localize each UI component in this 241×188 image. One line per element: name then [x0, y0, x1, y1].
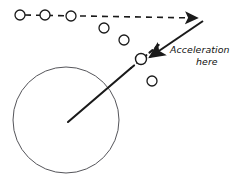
trajectory-marker-1: [15, 10, 25, 20]
trajectory-marker-4: [99, 23, 109, 33]
trajectory-marker-2: [40, 10, 50, 20]
trajectory-marker-5: [119, 35, 129, 45]
diagram-canvas: Acceleration here: [0, 0, 241, 188]
trajectory-marker-6: [136, 54, 147, 65]
physics-motion-diagram: Acceleration here: [0, 0, 241, 188]
inertial-path-dashed-line: [25, 15, 197, 18]
acceleration-label-line2: here: [196, 56, 218, 67]
trajectory-marker-3: [66, 11, 76, 21]
trajectory-marker-7: [147, 76, 157, 86]
planet-circle: [13, 67, 119, 173]
acceleration-label-line1: Acceleration: [169, 44, 230, 55]
gravity-radius-solid-line: [68, 68, 131, 122]
